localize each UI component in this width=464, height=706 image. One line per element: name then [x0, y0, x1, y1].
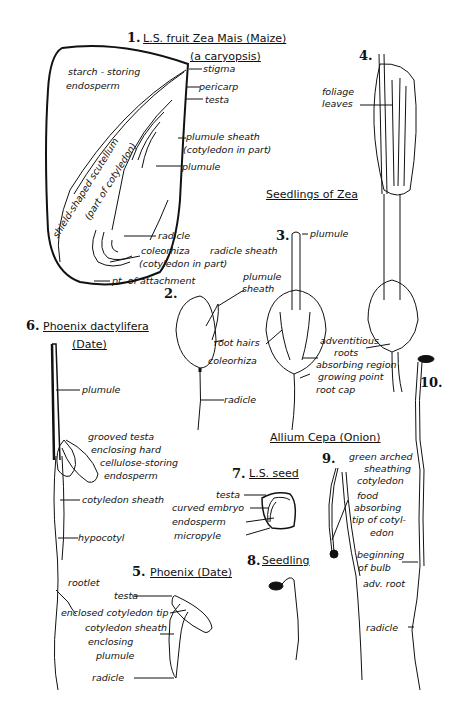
botanical-plate: 1. L.S. fruit Zea Mais (Maize) (a caryop…: [0, 0, 464, 706]
label-growing-point: growing point: [318, 371, 383, 382]
label-radicle-2: radicle: [224, 394, 256, 405]
label-sheath-2: sheath: [242, 283, 274, 294]
label-micropyle: micropyle: [174, 530, 221, 541]
figure-1-title: L.S. fruit Zea Mais (Maize): [143, 32, 286, 45]
line-drawings: [0, 0, 464, 706]
label-green-arched: green arched: [349, 451, 413, 462]
label-plumule-6: plumule: [82, 384, 120, 395]
seedlings-of-zea-heading: Seedlings of Zea: [266, 188, 358, 201]
label-coleorhiza: coleorhiza: [141, 245, 190, 256]
label-adv-root: adv. root: [363, 578, 405, 589]
label-testa: testa: [205, 94, 229, 105]
figure-9-number: 9.: [322, 451, 336, 466]
figure-1-number: 1.: [127, 30, 141, 45]
figure-5-title: Phoenix (Date): [150, 566, 232, 579]
label-plumule-5: plumule: [96, 650, 134, 661]
figure-6-title: Phoenix dactylifera: [43, 320, 149, 333]
allium-cepa-heading: Allium Cepa (Onion): [270, 431, 381, 444]
figure-8-number: 8.: [247, 553, 261, 568]
figure-1-subtitle: (a caryopsis): [190, 50, 261, 63]
label-testa-5: testa: [114, 590, 138, 601]
label-sheathing: sheathing: [364, 463, 411, 474]
label-cotyledon-sheath-5: cotyledon sheath: [85, 622, 167, 633]
figure-3-number: 3.: [276, 228, 290, 243]
label-edon: edon: [370, 527, 394, 538]
label-plumule: plumule: [182, 161, 220, 172]
label-testa-7: testa: [216, 489, 240, 500]
label-absorbing-region: absorbing region: [316, 359, 397, 370]
label-pericarp: pericarp: [199, 81, 238, 92]
figure-5-number: 5.: [132, 564, 146, 579]
label-plumule-sheath-note: (cotyledon in part): [183, 144, 271, 155]
label-hypocotyl: hypocotyl: [78, 532, 125, 543]
fig10-onion-seedling-drawing: [402, 356, 434, 691]
figure-6-number: 6.: [26, 318, 40, 333]
fig7-seed-section-drawing: [244, 493, 295, 535]
label-point-of-attachment: pt. of attachment: [112, 275, 195, 286]
figure-7-number: 7.: [232, 466, 246, 481]
label-roots: roots: [334, 347, 358, 358]
label-cotyledon-9: cotyledon: [357, 475, 404, 486]
label-tip-of-cotyl: tip of cotyl-: [352, 514, 406, 525]
figure-7-title: L.S. seed: [249, 467, 299, 480]
label-cotyledon-sheath: cotyledon sheath: [82, 494, 164, 505]
label-radicle-9: radicle: [366, 622, 398, 633]
label-rootlet: rootlet: [68, 577, 99, 588]
label-stigma: stigma: [203, 63, 235, 74]
label-coleorhiza-2: coleorhiza: [208, 355, 257, 366]
label-grooved-testa: grooved testa: [88, 431, 154, 442]
label-starch-storing: starch - storing: [68, 66, 140, 77]
label-cellulose-storing: cellulose-storing: [100, 457, 178, 468]
figure-10-number: 10.: [420, 375, 443, 390]
label-adventitious: adventitious: [320, 335, 379, 346]
figure-8-title: Seedling: [262, 554, 310, 567]
label-enclosing-hard: enclosing hard: [91, 444, 161, 455]
label-endosperm: endosperm: [66, 80, 120, 91]
label-endosperm-6: endosperm: [104, 470, 158, 481]
figure-6-subtitle: (Date): [72, 338, 107, 351]
label-coleorhiza-note: (cotyledon in part): [139, 258, 227, 269]
label-food: food: [357, 490, 378, 501]
label-root-cap: root cap: [316, 384, 355, 395]
label-leaves: leaves: [322, 98, 353, 109]
label-absorbing: absorbing: [354, 502, 401, 513]
label-enclosing-5: enclosing: [88, 636, 133, 647]
label-curved-embryo: curved embryo: [172, 502, 244, 513]
label-radicle-5: radicle: [92, 672, 124, 683]
label-endosperm-7: endosperm: [172, 516, 226, 527]
figure-2-number: 2.: [164, 286, 178, 301]
label-plumule-sheath-2: plumule: [243, 271, 281, 282]
label-plumule-sheath: plumule sheath: [186, 131, 260, 142]
figure-4-number: 4.: [359, 48, 373, 63]
label-root-hairs: root hairs: [214, 337, 260, 348]
label-foliage: foliage: [322, 86, 354, 97]
label-radicle: radicle: [158, 230, 190, 241]
label-radicle-sheath: radicle sheath: [210, 245, 278, 256]
label-enclosed-cotyledon-tip: enclosed cotyledon tip: [61, 607, 169, 618]
label-of-bulb: of bulb: [358, 562, 391, 573]
fig8-onion-seedling-drawing: [269, 578, 299, 660]
label-beginning: beginning: [357, 549, 404, 560]
label-plumule-3: plumule: [310, 228, 348, 239]
fig3-seedling-drawing: [266, 232, 326, 430]
